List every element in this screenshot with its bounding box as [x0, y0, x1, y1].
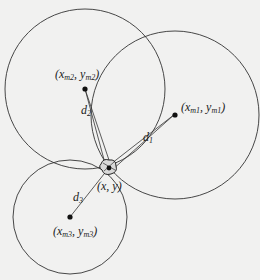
label-center-m1: (xm1, ym1) [181, 100, 225, 115]
center-point-m1 [172, 112, 177, 117]
center-point-m3 [67, 214, 72, 219]
distance-line-d1 [107, 114, 175, 170]
label-estimate: (x, y) [97, 179, 122, 193]
distance-line-d2 [85, 89, 111, 167]
label-center-m2: (xm2, ym2) [55, 67, 99, 82]
label-center-m3: (xm3, ym3) [53, 224, 97, 239]
estimate-point [107, 166, 112, 171]
label-d3: d3 [73, 190, 83, 205]
diagram-canvas: (xm2, ym2) (xm1, ym1) (xm3, ym3) (x, y) … [0, 0, 260, 280]
trilateration-diagram: (xm2, ym2) (xm1, ym1) (xm3, ym3) (x, y) … [0, 0, 260, 280]
center-point-m2 [82, 86, 87, 91]
